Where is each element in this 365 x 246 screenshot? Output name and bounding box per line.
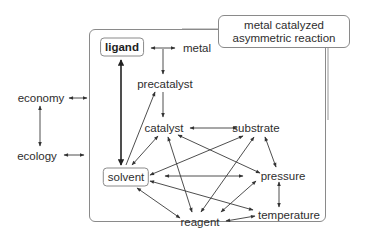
edge-catalyst-reagent	[168, 137, 192, 212]
edge-substrate-reagent	[201, 137, 254, 212]
node-precatalyst: precatalyst	[137, 78, 193, 91]
node-metal: metal	[183, 42, 211, 55]
title-line-2: asymmetric reaction	[233, 32, 336, 45]
node-ligand: ligand	[100, 38, 144, 57]
node-pressure: pressure	[261, 170, 306, 183]
node-economy: economy	[18, 92, 65, 105]
node-ecology: ecology	[17, 150, 57, 163]
edge-solvent-temperature	[150, 181, 253, 210]
node-reagent: reagent	[180, 216, 219, 229]
node-solvent: solvent	[103, 168, 149, 187]
edge-catalyst-pressure	[178, 135, 260, 173]
title-line-1: metal catalyzed	[244, 19, 324, 32]
edge-substrate-solvent	[150, 136, 243, 175]
edge-solvent-reagent	[137, 188, 180, 218]
node-substrate: substrate	[232, 122, 279, 135]
node-temperature: temperature	[258, 209, 320, 222]
edge-substrate-pressure	[265, 137, 276, 167]
title-box: metal catalyzed asymmetric reaction	[218, 15, 350, 48]
node-catalyst: catalyst	[145, 122, 184, 135]
edge-reagent-temperature	[226, 216, 255, 221]
edge-pressure-reagent	[221, 181, 256, 212]
